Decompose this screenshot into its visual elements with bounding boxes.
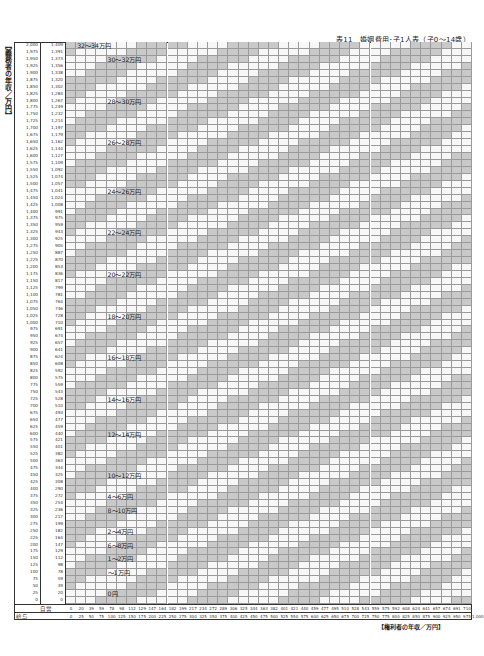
grid-cell <box>360 583 370 590</box>
grid-cell <box>239 236 249 243</box>
grid-cell <box>401 264 411 271</box>
grid-cell <box>269 410 279 417</box>
grid-cell <box>198 548 208 555</box>
grid-cell <box>340 222 350 229</box>
grid-cell <box>96 548 106 555</box>
grid-cell <box>289 160 299 167</box>
grid-cell <box>462 458 472 465</box>
grid-cell <box>269 132 279 139</box>
grid-cell <box>117 444 127 451</box>
grid-cell <box>421 410 431 417</box>
grid-cell <box>157 382 167 389</box>
grid-cell <box>157 202 167 209</box>
y-self-employed-value: 1,302 <box>41 84 65 91</box>
grid-cell <box>330 389 340 396</box>
grid-cell <box>401 382 411 389</box>
grid-cell <box>310 465 320 472</box>
grid-cell <box>340 104 350 111</box>
y-self-employed-value: 1,232 <box>41 111 65 118</box>
grid-cell <box>127 243 137 250</box>
grid-cell <box>168 472 178 479</box>
grid-cell <box>330 84 340 91</box>
grid-cell <box>86 188 96 195</box>
grid-cell <box>239 569 249 576</box>
y-self-employed-value: 905 <box>41 243 65 250</box>
grid-cell <box>462 229 472 236</box>
grid-cell <box>107 451 117 458</box>
y-salary-value: 350 <box>14 500 40 507</box>
grid-cell <box>431 458 441 465</box>
grid-cell <box>289 514 299 521</box>
grid-cell <box>269 250 279 257</box>
grid-cell <box>239 535 249 542</box>
grid-cell <box>442 91 452 98</box>
grid-cell <box>76 195 86 202</box>
grid-cell <box>137 548 147 555</box>
grid-cell <box>411 417 421 424</box>
y-self-employed-value: 1,041 <box>41 188 65 195</box>
y-salary-value: 975 <box>14 326 40 333</box>
grid-cell <box>411 111 421 118</box>
grid-cell <box>239 437 249 444</box>
grid-cell <box>239 555 249 562</box>
grid-cell <box>360 424 370 431</box>
grid-cell <box>208 375 218 382</box>
grid-cell <box>381 569 391 576</box>
grid-cell <box>198 202 208 209</box>
grid-cell <box>168 49 178 56</box>
grid-cell <box>310 590 320 597</box>
grid-cell <box>107 382 117 389</box>
grid-cell <box>168 542 178 549</box>
grid-cell <box>421 465 431 472</box>
grid-cell <box>228 292 238 299</box>
grid-cell <box>320 528 330 535</box>
grid-cell <box>137 451 147 458</box>
grid-cell <box>76 431 86 438</box>
grid-cell <box>442 229 452 236</box>
y-self-employed-value: 382 <box>41 451 65 458</box>
grid-cell <box>391 63 401 70</box>
grid-cell <box>86 299 96 306</box>
grid-cell <box>198 84 208 91</box>
y-self-employed-value: 836 <box>41 271 65 278</box>
grid-cell <box>157 306 167 313</box>
grid-cell <box>421 417 431 424</box>
grid-cell <box>462 590 472 597</box>
grid-cell <box>96 590 106 597</box>
grid-cell <box>442 340 452 347</box>
grid-cell <box>452 174 462 181</box>
grid-cell <box>228 535 238 542</box>
grid-cell <box>371 229 381 236</box>
grid-cell <box>452 535 462 542</box>
grid-cell <box>371 548 381 555</box>
grid-cell <box>299 56 309 63</box>
grid-cell <box>208 396 218 403</box>
y-salary-value: 300 <box>14 514 40 521</box>
grid-cell <box>239 285 249 292</box>
grid-cell <box>299 486 309 493</box>
grid-cell <box>279 292 289 299</box>
grid-cell <box>259 340 269 347</box>
grid-cell <box>259 583 269 590</box>
grid-cell <box>218 292 228 299</box>
grid-cell <box>320 139 330 146</box>
grid-cell <box>421 243 431 250</box>
grid-cell <box>330 472 340 479</box>
grid-cell <box>462 396 472 403</box>
grid-cell <box>198 500 208 507</box>
grid-cell <box>401 174 411 181</box>
grid-cell <box>259 125 269 132</box>
grid-cell <box>96 215 106 222</box>
grid-cell <box>279 528 289 535</box>
grid-cell <box>76 160 86 167</box>
grid-cell <box>218 451 228 458</box>
grid-cell <box>340 215 350 222</box>
x-salary-value: 550 <box>289 613 299 621</box>
grid-cell <box>117 111 127 118</box>
grid-cell <box>452 306 462 313</box>
grid-cell <box>452 278 462 285</box>
grid-cell <box>462 340 472 347</box>
grid-cell <box>178 333 188 340</box>
grid-cell <box>310 326 320 333</box>
grid-cell <box>330 125 340 132</box>
